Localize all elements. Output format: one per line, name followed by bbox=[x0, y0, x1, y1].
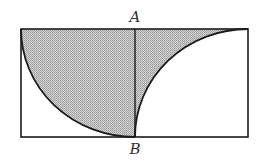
geometry-diagram: A B bbox=[0, 0, 260, 160]
right-shaded-region bbox=[135, 29, 248, 137]
label-b: B bbox=[128, 140, 140, 158]
left-shaded-region bbox=[21, 29, 135, 137]
label-a: A bbox=[128, 8, 141, 26]
